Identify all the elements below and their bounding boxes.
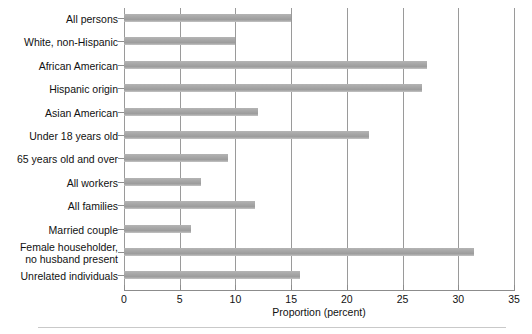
bar-row: White, non-Hispanic	[0, 33, 532, 57]
bar-row: Unrelated individuals	[0, 267, 532, 291]
category-label: 65 years old and over	[0, 154, 118, 166]
bar-row: All families	[0, 197, 532, 221]
category-label: Hispanic origin	[0, 84, 118, 96]
x-tick-label-5: 5	[177, 293, 183, 305]
category-label: White, non-Hispanic	[0, 37, 118, 49]
bar	[124, 201, 255, 209]
bar	[124, 131, 369, 139]
x-tick-25	[403, 285, 404, 291]
x-tick-35	[514, 285, 515, 291]
x-axis-title: Proportion (percent)	[124, 306, 514, 318]
x-tick-label-10: 10	[230, 293, 242, 305]
category-label: All workers	[0, 178, 118, 190]
bar-row: Under 18 years old	[0, 127, 532, 151]
bar	[124, 37, 235, 45]
bar	[124, 225, 191, 233]
bar-row: Hispanic origin	[0, 80, 532, 104]
x-tick-10	[235, 285, 236, 291]
bar-row: Asian American	[0, 104, 532, 128]
category-label: Asian American	[0, 108, 118, 120]
x-tick-30	[458, 285, 459, 291]
bar	[124, 154, 228, 162]
x-tick-label-15: 15	[285, 293, 297, 305]
x-tick-15	[291, 285, 292, 291]
category-label: African American	[0, 61, 118, 73]
category-label: Under 18 years old	[0, 131, 118, 143]
category-label: Female householder, no husband present	[0, 242, 118, 265]
bar-row: All persons	[0, 10, 532, 34]
bar-row: African American	[0, 57, 532, 81]
bar	[124, 178, 201, 186]
x-tick-label-0: 0	[121, 293, 127, 305]
bar	[124, 271, 300, 279]
x-tick-label-25: 25	[397, 293, 409, 305]
x-tick-20	[347, 285, 348, 291]
category-label: All persons	[0, 14, 118, 26]
bar-row: Female householder, no husband present	[0, 244, 532, 268]
bar-row: 65 years old and over	[0, 150, 532, 174]
category-label: Unrelated individuals	[0, 271, 118, 283]
footer-divider	[38, 327, 506, 328]
bar-row: All workers	[0, 174, 532, 198]
bar	[124, 108, 258, 116]
x-tick-0	[124, 285, 125, 291]
x-tick-5	[180, 285, 181, 291]
bar	[124, 14, 291, 22]
bar-chart: All personsWhite, non-HispanicAfrican Am…	[0, 0, 532, 334]
bar	[124, 84, 422, 92]
x-tick-label-30: 30	[452, 293, 464, 305]
category-label: Married couple	[0, 225, 118, 237]
bar	[124, 248, 474, 256]
x-tick-label-35: 35	[508, 293, 520, 305]
x-tick-label-20: 20	[341, 293, 353, 305]
category-label: All families	[0, 201, 118, 213]
bar	[124, 61, 427, 69]
